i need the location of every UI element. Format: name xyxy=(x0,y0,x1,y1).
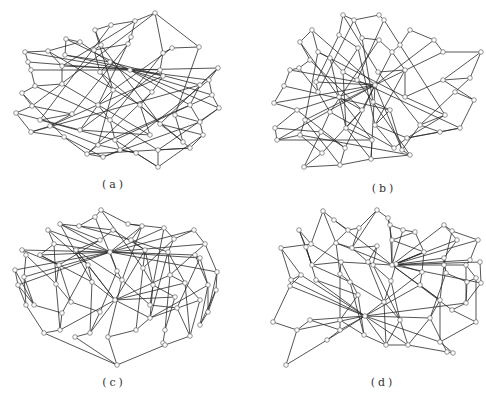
node xyxy=(398,318,403,323)
node xyxy=(408,153,413,158)
edge xyxy=(300,135,410,155)
edge xyxy=(108,337,117,365)
node xyxy=(198,256,203,261)
node xyxy=(201,133,206,138)
node xyxy=(198,120,203,125)
node xyxy=(288,284,293,289)
node xyxy=(468,76,473,81)
node xyxy=(64,37,69,42)
edge xyxy=(375,52,443,85)
node xyxy=(113,138,118,143)
node xyxy=(86,263,91,268)
node xyxy=(288,68,293,73)
node xyxy=(375,208,380,213)
edges xyxy=(16,13,219,167)
node xyxy=(303,118,308,123)
edge xyxy=(274,85,375,103)
node xyxy=(140,224,145,229)
edge xyxy=(131,226,142,240)
node xyxy=(369,157,374,162)
node xyxy=(113,298,118,303)
node xyxy=(479,281,484,286)
node xyxy=(26,60,31,65)
node xyxy=(474,320,479,325)
panel-caption-b: (b) xyxy=(372,182,397,195)
edge xyxy=(375,70,405,125)
edge xyxy=(440,265,444,300)
node xyxy=(413,230,418,235)
node xyxy=(170,46,175,51)
node xyxy=(93,215,98,220)
node xyxy=(338,318,343,323)
node xyxy=(443,113,448,118)
edge xyxy=(175,47,199,115)
node xyxy=(148,303,153,308)
node xyxy=(338,163,343,168)
node xyxy=(438,298,443,303)
edge xyxy=(62,21,135,66)
edge xyxy=(31,132,64,137)
node xyxy=(42,331,47,336)
node xyxy=(181,140,186,145)
node xyxy=(92,48,97,53)
edge xyxy=(100,271,117,312)
edge xyxy=(40,244,54,255)
node xyxy=(148,133,153,138)
node xyxy=(188,146,193,151)
node xyxy=(337,95,342,100)
node xyxy=(360,108,365,113)
edge xyxy=(286,340,327,365)
node xyxy=(206,310,211,315)
edge xyxy=(153,228,164,285)
node xyxy=(78,128,83,133)
node xyxy=(77,224,82,229)
edge xyxy=(420,115,445,125)
node xyxy=(373,123,378,128)
node xyxy=(161,51,166,56)
edge xyxy=(305,120,340,165)
edge xyxy=(446,273,467,282)
node xyxy=(339,260,344,265)
node xyxy=(373,83,378,88)
node xyxy=(377,38,382,43)
network-panel-a xyxy=(14,11,222,170)
node xyxy=(69,300,74,305)
node xyxy=(143,248,148,253)
edge xyxy=(371,155,410,159)
node xyxy=(29,130,34,135)
edge xyxy=(392,232,415,240)
node xyxy=(151,283,156,288)
node xyxy=(192,228,197,233)
node xyxy=(325,338,330,343)
node xyxy=(390,263,395,268)
node xyxy=(403,68,408,73)
node xyxy=(134,151,139,156)
node xyxy=(284,363,289,368)
node xyxy=(356,46,361,51)
panel-caption-a: (a) xyxy=(102,178,126,191)
node xyxy=(341,13,346,18)
node xyxy=(175,306,180,311)
node xyxy=(332,218,337,223)
node xyxy=(438,130,443,135)
node xyxy=(297,228,302,233)
edge xyxy=(408,345,447,352)
node xyxy=(24,303,29,308)
node xyxy=(109,23,114,28)
node xyxy=(108,60,113,65)
panel-caption-c: (c) xyxy=(102,376,126,389)
node xyxy=(33,84,38,89)
edge xyxy=(24,255,26,277)
node xyxy=(60,311,65,316)
node xyxy=(188,103,193,108)
edge xyxy=(62,265,88,313)
node xyxy=(153,11,158,16)
node xyxy=(78,40,83,45)
edge xyxy=(35,84,62,86)
node xyxy=(320,151,325,156)
node xyxy=(134,328,139,333)
edge xyxy=(390,110,402,150)
node xyxy=(46,49,51,54)
node xyxy=(54,282,59,287)
network-panel-d xyxy=(271,208,484,368)
